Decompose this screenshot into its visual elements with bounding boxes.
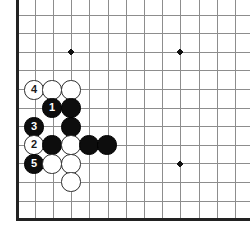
stone-black[interactable] — [61, 117, 80, 136]
stone-black[interactable] — [79, 135, 98, 154]
stone-white[interactable] — [61, 80, 80, 99]
stone-move-number: 3 — [31, 121, 37, 132]
stone-black-move-3[interactable]: 3 — [24, 117, 43, 136]
stone-black[interactable] — [97, 135, 116, 154]
stone-white[interactable] — [61, 135, 80, 154]
stone-move-number: 5 — [31, 158, 37, 169]
star-point — [177, 161, 182, 166]
stone-white-move-4[interactable]: 4 — [24, 80, 43, 99]
stone-move-number: 1 — [49, 102, 55, 113]
stone-black[interactable] — [61, 98, 80, 117]
star-point — [177, 49, 182, 54]
stone-white[interactable] — [42, 80, 61, 99]
stone-black[interactable] — [42, 135, 61, 154]
stone-white[interactable] — [61, 154, 80, 173]
stone-move-number: 4 — [31, 84, 37, 95]
star-point — [68, 49, 73, 54]
stone-white-move-2[interactable]: 2 — [24, 135, 43, 154]
go-diagram: 41325 — [0, 0, 250, 232]
stone-black-move-5[interactable]: 5 — [24, 154, 43, 173]
board-background — [0, 0, 250, 232]
stone-white[interactable] — [42, 154, 61, 173]
stone-move-number: 2 — [31, 139, 37, 150]
stone-white[interactable] — [61, 172, 80, 191]
stone-black-move-1[interactable]: 1 — [42, 98, 61, 117]
goban-grid — [0, 0, 250, 232]
